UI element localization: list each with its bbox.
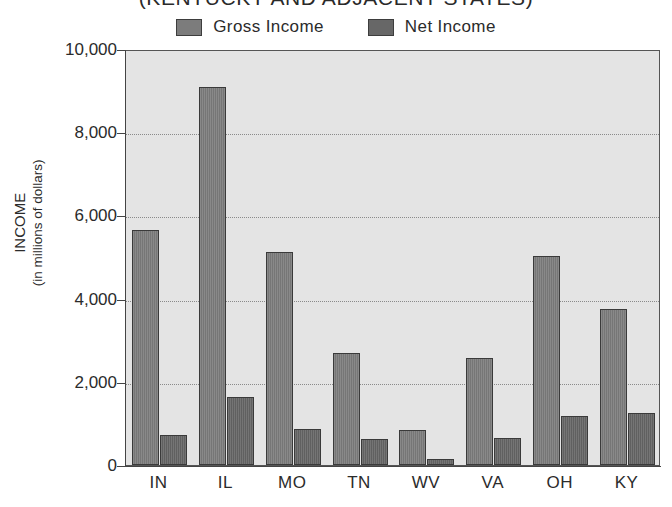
bar-group bbox=[266, 51, 321, 465]
x-axis-label-in: IN bbox=[128, 473, 188, 493]
y-axis-tick-label: 4,000 bbox=[47, 290, 117, 310]
bars-layer bbox=[126, 51, 659, 465]
x-axis-label-ky: KY bbox=[597, 473, 657, 493]
bar-oh-gross[interactable] bbox=[533, 256, 560, 465]
bar-group bbox=[533, 51, 588, 465]
y-axis-tick-mark bbox=[117, 216, 125, 217]
y-axis-tick-mark bbox=[117, 466, 125, 467]
bar-group bbox=[399, 51, 454, 465]
y-axis-tick-mark bbox=[117, 50, 125, 51]
bar-chart-figure: (KENTUCKY AND ADJACENT STATES) Gross Inc… bbox=[0, 0, 672, 507]
x-axis-label-mo: MO bbox=[262, 473, 322, 493]
bar-tn-gross[interactable] bbox=[333, 353, 360, 465]
bar-il-gross[interactable] bbox=[199, 87, 226, 465]
y-axis-tick-mark bbox=[117, 383, 125, 384]
legend-item-net-income[interactable]: Net Income bbox=[368, 17, 496, 37]
y-axis-tick-label: 8,000 bbox=[47, 123, 117, 143]
bar-mo-gross[interactable] bbox=[266, 252, 293, 465]
y-axis-tick-label: 6,000 bbox=[47, 206, 117, 226]
y-axis-tick-mark bbox=[117, 133, 125, 134]
x-axis-label-tn: TN bbox=[329, 473, 389, 493]
bar-mo-net[interactable] bbox=[294, 429, 321, 465]
bar-group bbox=[466, 51, 521, 465]
x-axis-label-va: VA bbox=[463, 473, 523, 493]
legend-swatch-net-income bbox=[368, 19, 394, 36]
bar-va-gross[interactable] bbox=[466, 358, 493, 465]
bar-tn-net[interactable] bbox=[361, 439, 388, 465]
legend-label-gross-income: Gross Income bbox=[213, 17, 324, 37]
x-axis-label-il: IL bbox=[195, 473, 255, 493]
y-axis-title: INCOME (in millions of dollars) bbox=[11, 118, 47, 328]
y-axis-title-main: INCOME bbox=[11, 193, 28, 253]
legend-label-net-income: Net Income bbox=[405, 17, 496, 37]
y-axis-tick-label: 2,000 bbox=[47, 373, 117, 393]
bar-group bbox=[199, 51, 254, 465]
y-axis-tick-label: 0 bbox=[47, 456, 117, 476]
bar-group bbox=[132, 51, 187, 465]
y-axis-title-sub: (in millions of dollars) bbox=[30, 118, 47, 328]
y-axis-tick-mark bbox=[117, 300, 125, 301]
x-axis-label-wv: WV bbox=[396, 473, 456, 493]
bar-va-net[interactable] bbox=[494, 438, 521, 465]
bar-group bbox=[600, 51, 655, 465]
chart-legend: Gross Income Net Income bbox=[0, 16, 672, 38]
bar-oh-net[interactable] bbox=[561, 416, 588, 465]
x-axis-line bbox=[125, 466, 661, 467]
y-axis-tick-label: 10,000 bbox=[47, 40, 117, 60]
bar-il-net[interactable] bbox=[227, 397, 254, 465]
bar-wv-net[interactable] bbox=[427, 459, 454, 465]
legend-swatch-gross-income bbox=[176, 19, 202, 36]
chart-title: (KENTUCKY AND ADJACENT STATES) bbox=[0, 0, 672, 10]
plot-area bbox=[125, 50, 660, 466]
y-axis-line bbox=[125, 50, 126, 467]
bar-wv-gross[interactable] bbox=[399, 430, 426, 465]
bar-in-gross[interactable] bbox=[132, 230, 159, 465]
legend-item-gross-income[interactable]: Gross Income bbox=[176, 17, 324, 37]
x-axis-label-oh: OH bbox=[530, 473, 590, 493]
bar-in-net[interactable] bbox=[160, 435, 187, 465]
bar-ky-gross[interactable] bbox=[600, 309, 627, 465]
bar-group bbox=[333, 51, 388, 465]
bar-ky-net[interactable] bbox=[628, 413, 655, 465]
